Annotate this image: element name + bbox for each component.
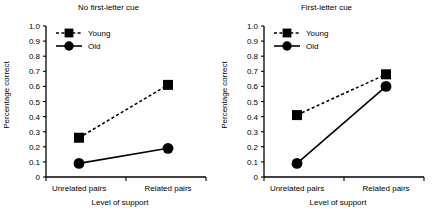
data-point-old bbox=[74, 158, 85, 169]
y-axis-tick-label: 0.1 bbox=[29, 158, 41, 167]
x-axis-label: Level of support bbox=[248, 198, 428, 208]
data-point-young bbox=[163, 80, 173, 90]
y-axis-tick-label: 0.9 bbox=[247, 37, 259, 46]
data-point-young bbox=[74, 133, 84, 143]
series-line-old bbox=[79, 148, 168, 163]
plot-area: 00.10.20.30.40.50.60.70.80.91.0Unrelated… bbox=[218, 0, 435, 219]
y-axis-tick-label: 0 bbox=[36, 173, 41, 182]
y-axis-tick-label: 1.0 bbox=[247, 22, 259, 31]
legend-label-old: Old bbox=[88, 42, 100, 51]
y-axis-tick-label: 0.5 bbox=[29, 98, 41, 107]
series-line-old bbox=[297, 86, 386, 163]
chart-panel-no-first-letter-cue: No first-letter cue Percentage correct 0… bbox=[0, 0, 217, 219]
legend-marker-young bbox=[283, 29, 292, 38]
x-axis-label: Level of support bbox=[30, 198, 210, 208]
x-axis-category-label: Unrelated pairs bbox=[270, 184, 324, 193]
plot-area: 00.10.20.30.40.50.60.70.80.91.0Unrelated… bbox=[0, 0, 217, 219]
y-axis-tick-label: 0.1 bbox=[247, 158, 259, 167]
chart-panel-first-letter-cue: First-letter cue Percentage correct 00.1… bbox=[218, 0, 435, 219]
y-axis-tick-label: 1.0 bbox=[29, 22, 41, 31]
y-axis-tick-label: 0.9 bbox=[29, 37, 41, 46]
x-axis-category-label: Unrelated pairs bbox=[52, 184, 106, 193]
legend-label-young: Young bbox=[88, 29, 110, 38]
y-axis-tick-label: 0.3 bbox=[29, 128, 41, 137]
y-axis-tick-label: 0.2 bbox=[247, 143, 259, 152]
y-axis-tick-label: 0.8 bbox=[29, 52, 41, 61]
y-axis-tick-label: 0.5 bbox=[247, 98, 259, 107]
legend-marker-young bbox=[65, 29, 74, 38]
data-point-old bbox=[381, 81, 392, 92]
y-axis-tick-label: 0.2 bbox=[29, 143, 41, 152]
y-axis-tick-label: 0.6 bbox=[29, 82, 41, 91]
series-line-young bbox=[79, 85, 168, 138]
y-axis-tick-label: 0.4 bbox=[247, 113, 259, 122]
figure: No first-letter cue Percentage correct 0… bbox=[0, 0, 435, 219]
x-axis-category-label: Related pairs bbox=[362, 184, 409, 193]
y-axis-tick-label: 0.6 bbox=[247, 82, 259, 91]
data-point-old bbox=[163, 143, 174, 154]
y-axis-tick-label: 0.7 bbox=[29, 67, 41, 76]
y-axis-tick-label: 0.3 bbox=[247, 128, 259, 137]
data-point-young bbox=[381, 69, 391, 79]
y-axis-tick-label: 0.7 bbox=[247, 67, 259, 76]
legend-marker-old bbox=[64, 41, 73, 50]
legend-marker-old bbox=[282, 41, 291, 50]
y-axis-tick-label: 0.8 bbox=[247, 52, 259, 61]
data-point-old bbox=[292, 158, 303, 169]
series-line-young bbox=[297, 74, 386, 115]
legend-label-old: Old bbox=[306, 42, 318, 51]
legend-label-young: Young bbox=[306, 29, 328, 38]
y-axis-tick-label: 0 bbox=[254, 173, 259, 182]
x-axis-category-label: Related pairs bbox=[144, 184, 191, 193]
y-axis-tick-label: 0.4 bbox=[29, 113, 41, 122]
data-point-young bbox=[292, 110, 302, 120]
